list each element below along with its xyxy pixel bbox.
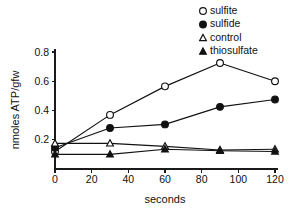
legend-item-sulfite[interactable]: sulfite <box>200 4 238 16</box>
line-chart: 0.20.40.60.8 020406080100120 sulfitesulf… <box>0 0 301 208</box>
y-tick-label: 0.2 <box>34 133 49 145</box>
series-line-sulfite <box>55 63 275 151</box>
open-circle-marker <box>200 8 207 15</box>
markers-sulfite <box>52 60 279 155</box>
filled-circle-marker <box>200 21 207 28</box>
series-sulfite <box>55 63 275 151</box>
x-tick-label: 120 <box>266 173 284 185</box>
legend-item-sulfide[interactable]: sulfide <box>200 17 241 29</box>
chart-legend: sulfitesulfidecontrolthiosulfate <box>200 4 258 57</box>
x-tick-label: 60 <box>159 173 171 185</box>
open-circle-marker <box>272 78 279 85</box>
legend-label: thiosulfate <box>210 44 258 56</box>
y-axis-title: nmoles ATP/gfw <box>9 71 21 150</box>
open-triangle-marker <box>200 34 207 40</box>
filled-circle-marker <box>107 125 114 132</box>
legend-item-thiosulfate[interactable]: thiosulfate <box>200 44 258 56</box>
open-circle-marker <box>107 111 114 118</box>
filled-circle-marker <box>272 96 279 103</box>
series-layer <box>52 60 279 157</box>
filled-circle-marker <box>217 103 224 110</box>
open-circle-marker <box>217 60 224 67</box>
legend-label: sulfite <box>210 4 238 16</box>
y-tick-label: 0.8 <box>34 46 49 58</box>
legend-label: sulfide <box>210 17 241 29</box>
legend-item-control[interactable]: control <box>200 31 242 43</box>
x-axis: 020406080100120 <box>52 169 284 185</box>
y-tick-label: 0.6 <box>34 75 49 87</box>
x-tick-label: 80 <box>196 173 208 185</box>
x-tick-label: 40 <box>122 173 134 185</box>
y-tick-label: 0.4 <box>34 104 49 116</box>
filled-triangle-marker <box>200 48 207 54</box>
x-tick-label: 20 <box>86 173 98 185</box>
x-tick-label: 0 <box>52 173 58 185</box>
x-axis-title: seconds <box>145 193 186 205</box>
legend-label: control <box>210 31 242 43</box>
chart-figure: 0.20.40.60.8 020406080100120 sulfitesulf… <box>0 0 301 208</box>
x-tick-label: 100 <box>230 173 248 185</box>
open-circle-marker <box>162 83 169 90</box>
filled-circle-marker <box>162 121 169 128</box>
